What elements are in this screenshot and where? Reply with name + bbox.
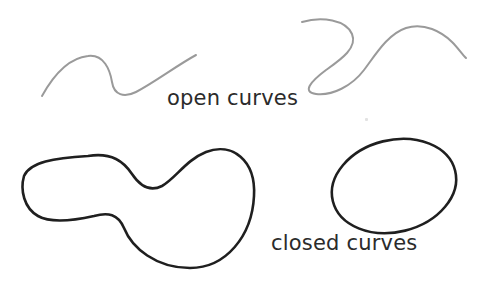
open-curve-right bbox=[302, 19, 466, 94]
scan-speck-artifact bbox=[365, 118, 368, 121]
open-curves-label: open curves bbox=[167, 88, 298, 109]
curves-figure: open curves closed curves bbox=[0, 0, 480, 282]
closed-curves-label: closed curves bbox=[271, 233, 417, 254]
closed-curve-ellipse bbox=[322, 126, 467, 246]
closed-curve-blob bbox=[23, 149, 255, 268]
